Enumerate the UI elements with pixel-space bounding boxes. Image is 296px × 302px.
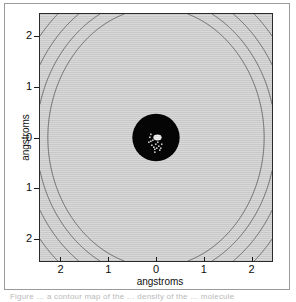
y-tick-label: 2 [16,29,32,41]
core-speckle [157,141,159,143]
y-tick-mark [34,239,39,240]
y-tick-mark [34,36,39,37]
figure-frame: 21012 21012 angstroms angstroms [4,3,290,290]
core-speckle [154,148,156,150]
y-tick-label: 2 [16,232,32,244]
x-tick-label: 2 [50,263,70,275]
core-speckle [161,143,163,145]
x-tick-mark [108,257,109,262]
core-speckle [151,144,153,146]
core-speckle [149,137,151,139]
figure-caption: Figure … a contour map of the … density … [10,292,286,302]
core-highlight [153,135,161,141]
contour-lines [40,14,272,261]
core-speckle [153,146,155,148]
core-speckle [150,140,152,142]
x-tick-label: 1 [98,263,118,275]
core-speckle [152,139,154,141]
y-tick-mark [34,138,39,139]
x-tick-mark [204,257,205,262]
core-speckle [148,141,150,143]
x-tick-label: 2 [242,263,262,275]
core-speckle [156,147,158,149]
core-speckle [155,143,157,145]
x-tick-mark [156,257,157,262]
contour-plot-area [39,13,273,262]
x-tick-mark [60,257,61,262]
y-tick-mark [34,87,39,88]
x-tick-label: 1 [194,263,214,275]
core-speckle [158,145,160,147]
y-axis-label: angstroms [20,88,31,188]
x-axis-label: angstroms [43,276,277,287]
core-speckle [159,149,161,151]
x-tick-label: 0 [146,263,166,275]
y-tick-mark [34,188,39,189]
core-speckle [150,134,152,136]
core-speckle [160,147,162,149]
x-tick-mark [252,257,253,262]
core-speckle [154,151,156,153]
